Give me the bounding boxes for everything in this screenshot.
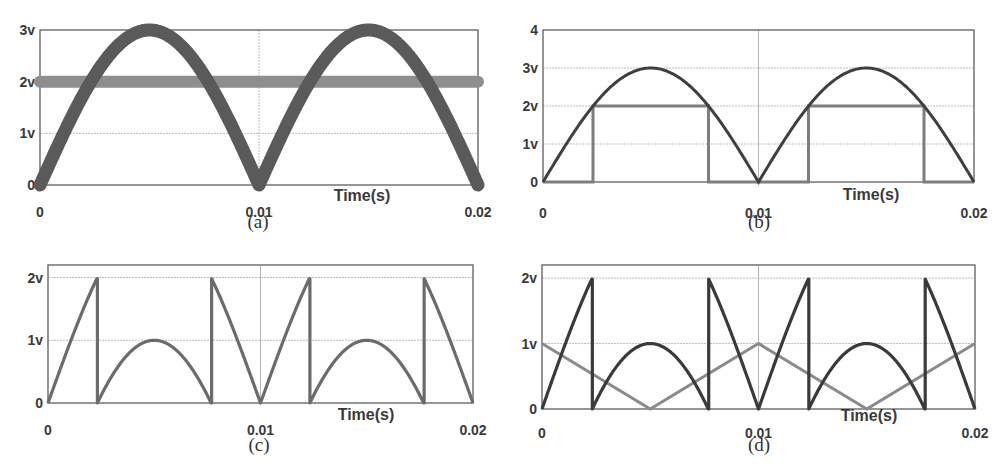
y-tick-label: 1v xyxy=(522,136,538,152)
y-tick-label: 3v xyxy=(522,60,538,76)
x-tick-label: 0.02 xyxy=(960,205,987,221)
panel-caption: (b) xyxy=(748,211,770,233)
x-axis-label: Time(s) xyxy=(334,187,391,204)
figure: 3v2v1v000.010.02Time(s)(a) 43v2v1v000.01… xyxy=(0,0,1007,471)
x-tick-label: 0 xyxy=(36,204,44,220)
x-tick-label: 0 xyxy=(538,425,546,441)
y-tick-label: 2v xyxy=(522,98,538,114)
y-tick-label: 1v xyxy=(19,125,35,141)
panel-c: 2v1v000.010.02Time(s)(c) xyxy=(27,265,486,456)
x-axis-label: Time(s) xyxy=(338,406,395,423)
y-tick-label: 0 xyxy=(35,395,43,411)
y-tick-label: 2v xyxy=(27,270,43,286)
panel-b: 43v2v1v000.010.02Time(s)(b) xyxy=(522,22,987,233)
y-tick-label: 1v xyxy=(521,336,537,352)
series-rectified-sine xyxy=(40,30,478,185)
panel-d: 2v1v000.010.02Time(s)(d) xyxy=(521,265,988,456)
y-tick-label: 3v xyxy=(19,22,35,38)
y-tick-label: 4 xyxy=(530,22,538,38)
x-tick-label: 0.02 xyxy=(961,425,988,441)
y-tick-label: 0 xyxy=(529,401,537,417)
y-tick-label: 1v xyxy=(27,332,43,348)
x-axis-label: Time(s) xyxy=(841,407,898,424)
x-tick-label: 0 xyxy=(539,205,547,221)
x-tick-label: 0.02 xyxy=(459,422,486,438)
y-tick-label: 2v xyxy=(521,270,537,286)
x-tick-label: 0 xyxy=(44,422,52,438)
y-tick-label: 2v xyxy=(19,74,35,90)
y-tick-label: 0 xyxy=(530,174,538,190)
panel-caption: (d) xyxy=(748,434,770,456)
panel-caption: (a) xyxy=(247,211,268,233)
x-tick-label: 0.02 xyxy=(464,204,491,220)
panel-caption: (c) xyxy=(248,434,269,456)
x-axis-label: Time(s) xyxy=(843,186,900,203)
panel-a: 3v2v1v000.010.02Time(s)(a) xyxy=(19,22,491,233)
